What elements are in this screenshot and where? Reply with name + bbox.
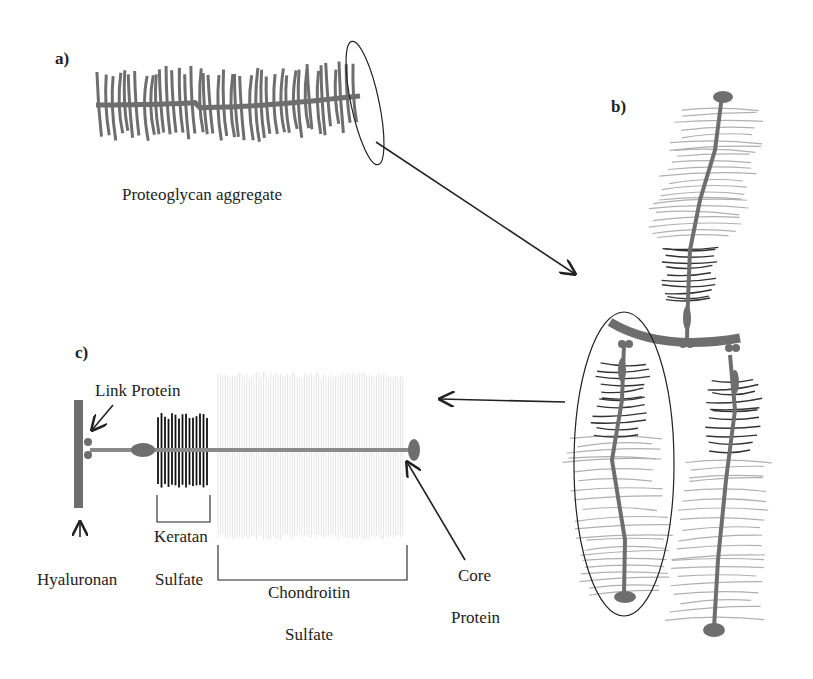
arrow-b-to-c: [440, 399, 565, 402]
diagram-canvas: [0, 0, 813, 679]
panel-label-c: c): [75, 343, 88, 363]
label-core: Core: [458, 566, 491, 586]
label-keratan-sulfate: Sulfate: [155, 570, 203, 590]
label-keratan: Keratan: [154, 527, 208, 547]
label-link-protein: Link Protein: [95, 381, 180, 401]
label-chondroitin: Chondroitin: [268, 583, 350, 603]
panel-label-a: a): [55, 49, 69, 69]
label-hyaluronan: Hyaluronan: [37, 570, 117, 590]
link-protein-arrow: [92, 405, 113, 430]
arrow-a-to-b: [376, 142, 575, 274]
keratan-bracket: [157, 495, 210, 522]
proteoglycan-figure: a) Proteoglycan aggregate b) c) Link Pro…: [0, 0, 813, 679]
chondroitin-bracket: [218, 545, 407, 580]
aggregate-segment-detail: [563, 91, 772, 637]
label-chondroitin-sulfate: Sulfate: [285, 625, 333, 645]
panel-label-b: b): [611, 97, 626, 117]
caption-proteoglycan-aggregate: Proteoglycan aggregate: [122, 185, 282, 205]
label-core-protein: Protein: [451, 608, 500, 628]
core-protein-arrow: [407, 462, 465, 560]
proteoglycan-aggregate: [96, 62, 360, 142]
